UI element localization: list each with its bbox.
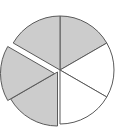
pie-chart-figure xyxy=(0,0,121,137)
pie-chart-canvas xyxy=(0,0,121,137)
pie-slice-group xyxy=(0,16,114,126)
